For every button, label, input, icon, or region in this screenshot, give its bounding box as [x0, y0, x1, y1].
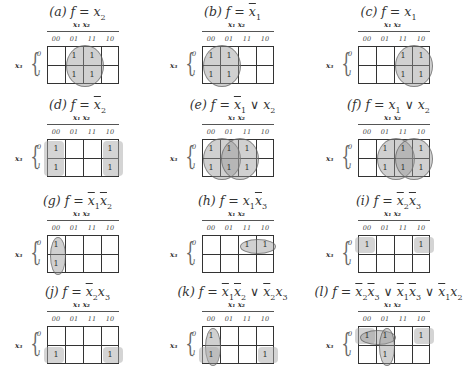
column-variables-label: x₁ x₂	[228, 113, 245, 122]
column-label-11: 11	[394, 315, 412, 323]
cell-value-one: 1	[220, 46, 238, 65]
row-brace: {	[341, 330, 351, 356]
column-variables-label: x₁ x₂	[384, 209, 401, 218]
cell-value-one: 1	[256, 345, 274, 364]
column-label-01: 01	[65, 315, 83, 323]
column-label-11: 11	[238, 128, 256, 136]
cell-value-one: 1	[376, 345, 394, 364]
column-label-01: 01	[376, 224, 394, 232]
panel-title: (k) f = x1x2 ∨ x2x3	[155, 284, 310, 302]
kmap-panel-l: (l) f = x2x3 ∨ x1x3 ∨ x1x2x₁ x₂000111101…	[311, 280, 466, 375]
column-label-11: 11	[83, 35, 101, 43]
column-header-bar	[202, 31, 274, 32]
cell-value-one: 1	[412, 139, 430, 158]
cell-value-one: 1	[47, 158, 65, 177]
column-label-10: 10	[412, 128, 430, 136]
column-label-01: 01	[220, 128, 238, 136]
column-label-10: 10	[256, 128, 274, 136]
panel-title: (f) f = x1 ∨ x2	[311, 97, 466, 115]
column-label-10: 10	[256, 224, 274, 232]
column-label-11: 11	[394, 128, 412, 136]
kmap-grid: 111	[202, 326, 274, 364]
column-label-01: 01	[65, 128, 83, 136]
column-label-10: 10	[101, 128, 119, 136]
row-brace: {	[30, 239, 40, 265]
column-label-00: 00	[202, 35, 220, 43]
row-variable-label: x₃	[170, 341, 177, 350]
column-label-10: 10	[412, 35, 430, 43]
row-brace: {	[30, 143, 40, 169]
kmap-panel-i: (i) f = x2x3x₁ x₂000111101101{x₃	[311, 189, 466, 284]
column-label-00: 00	[47, 315, 65, 323]
column-header-bar	[47, 31, 119, 32]
row-variable-label: x₃	[15, 250, 22, 259]
column-label-10: 10	[412, 224, 430, 232]
kmap-grid: 11	[358, 235, 430, 273]
kmap-grid: 11	[202, 235, 274, 273]
row-variable-label: x₃	[170, 154, 177, 163]
cell-value-one: 1	[47, 139, 65, 158]
cell-value-one: 1	[202, 46, 220, 65]
cell-value-one: 1	[394, 65, 412, 84]
column-header-bar	[358, 31, 430, 32]
kmap-grid: 1111	[358, 326, 430, 364]
kmap-grid: 11	[47, 326, 119, 364]
kmap-panel-b: (b) f = x1x₁ x₂00011110111101{x₃	[155, 0, 310, 95]
column-label-01: 01	[376, 128, 394, 136]
row-variable-label: x₃	[326, 250, 333, 259]
column-variables-label: x₁ x₂	[73, 300, 90, 309]
row-variable-label: x₃	[326, 61, 333, 70]
grid-hline	[359, 254, 429, 255]
cell-value-one: 1	[376, 139, 394, 158]
column-label-10: 10	[256, 35, 274, 43]
row-brace: {	[30, 330, 40, 356]
column-header-bar	[358, 311, 430, 312]
kmap-grid: 1111	[47, 139, 119, 177]
column-label-10: 10	[101, 35, 119, 43]
kmap-grid: 1111	[358, 46, 430, 84]
kmap-grid: 11	[47, 235, 119, 273]
row-brace: {	[341, 239, 351, 265]
kmap-panel-j: (j) f = x2x3x₁ x₂000111101101{x₃	[0, 280, 155, 375]
column-variables-label: x₁ x₂	[73, 20, 90, 29]
cell-value-one: 1	[101, 139, 119, 158]
cell-value-one: 1	[101, 158, 119, 177]
column-header-bar	[202, 220, 274, 221]
cell-value-one: 1	[220, 65, 238, 84]
column-header-bar	[47, 220, 119, 221]
cell-value-one: 1	[412, 46, 430, 65]
column-label-00: 00	[202, 315, 220, 323]
column-header-bar	[47, 311, 119, 312]
cell-value-one: 1	[202, 65, 220, 84]
panel-title: (b) f = x1	[155, 4, 310, 22]
column-variables-label: x₁ x₂	[73, 113, 90, 122]
column-label-01: 01	[376, 315, 394, 323]
kmap-grid: 1111	[47, 46, 119, 84]
panel-title: (h) f = x1x3	[155, 193, 310, 211]
row-variable-label: x₃	[15, 341, 22, 350]
cell-value-one: 1	[376, 158, 394, 177]
panel-title: (e) f = x1 ∨ x2	[155, 97, 310, 115]
column-label-01: 01	[220, 315, 238, 323]
column-header-bar	[202, 124, 274, 125]
panel-title: (c) f = x1	[311, 4, 466, 22]
cell-value-one: 1	[202, 326, 220, 345]
cell-value-one: 1	[65, 46, 83, 65]
row-brace: {	[185, 330, 195, 356]
cell-value-one: 1	[394, 158, 412, 177]
cell-value-one: 1	[238, 139, 256, 158]
panel-title: (j) f = x2x3	[0, 284, 155, 302]
cell-value-one: 1	[47, 254, 65, 273]
column-label-00: 00	[47, 128, 65, 136]
column-header-bar	[358, 220, 430, 221]
column-label-11: 11	[83, 128, 101, 136]
cell-value-one: 1	[412, 235, 430, 254]
kmap-panel-a: (a) f = x2x₁ x₂00011110111101{x₃	[0, 0, 155, 95]
cell-value-one: 1	[220, 139, 238, 158]
column-label-10: 10	[256, 315, 274, 323]
row-brace: {	[185, 239, 195, 265]
kmap-panel-h: (h) f = x1x3x₁ x₂000111101101{x₃	[155, 189, 310, 284]
column-label-11: 11	[394, 224, 412, 232]
column-variables-label: x₁ x₂	[384, 113, 401, 122]
column-label-10: 10	[412, 315, 430, 323]
